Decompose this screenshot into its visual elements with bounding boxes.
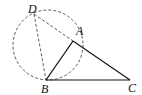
- label-b: B: [41, 82, 49, 95]
- segment-ab: [46, 41, 73, 80]
- label-c: C: [128, 81, 137, 95]
- geometry-diagram: D A B C: [0, 0, 142, 95]
- label-a: A: [75, 24, 84, 38]
- segment-ac: [73, 41, 130, 80]
- label-d: D: [27, 2, 37, 16]
- segment-db: [34, 14, 46, 80]
- circle-through-d-a-b: [13, 10, 83, 80]
- segment-da: [34, 14, 73, 41]
